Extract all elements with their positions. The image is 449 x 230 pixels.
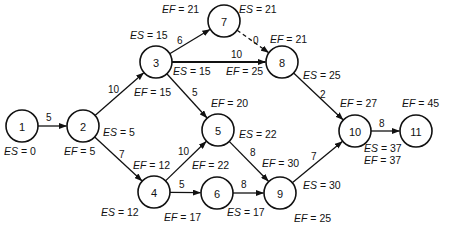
early-start-label: ES = 17 <box>227 206 265 218</box>
edge-9-10 <box>292 142 342 183</box>
early-start-label: ES = 15 <box>130 29 168 41</box>
node-label: 5 <box>215 125 221 137</box>
node-9: 9 <box>264 177 296 209</box>
edge-weight-label: 7 <box>119 149 125 160</box>
edge-weight-label: 10 <box>108 84 120 95</box>
early-finish-label: EF = 12 <box>133 159 170 171</box>
edge-weight-label: 8 <box>379 118 385 129</box>
edge-weight-label: 10 <box>231 49 243 60</box>
node-label: 7 <box>221 16 227 28</box>
early-finish-label: EF = 30 <box>262 157 299 169</box>
node-label: 8 <box>279 57 285 69</box>
edge-weight-label: 0 <box>253 35 259 46</box>
early-finish-label: EF = 27 <box>340 97 377 109</box>
node-3: 3 <box>140 46 172 78</box>
node-label: 9 <box>277 188 283 200</box>
node-label: 10 <box>349 126 361 138</box>
early-finish-label: EF = 25 <box>226 65 263 77</box>
edge-weight-label: 5 <box>179 179 185 190</box>
node-4: 4 <box>138 176 170 208</box>
node-1: 1 <box>6 110 38 142</box>
early-start-label: ES = 22 <box>239 128 277 140</box>
early-finish-label: EF = 21 <box>162 3 199 15</box>
early-start-label: ES = 37 <box>364 142 402 154</box>
early-finish-label: EF = 17 <box>164 211 201 223</box>
edge-weight-label: 2 <box>320 89 326 100</box>
early-finish-label: EF = 21 <box>270 33 307 45</box>
early-finish-label: EF = 5 <box>64 145 95 157</box>
early-finish-label: EF = 37 <box>364 154 401 166</box>
node-7: 7 <box>208 5 240 37</box>
early-start-label: ES = 0 <box>4 145 36 157</box>
edge-3-7 <box>170 30 210 54</box>
edge-weight-label: 6 <box>177 35 183 46</box>
early-start-label: ES = 15 <box>173 65 211 77</box>
node-2: 2 <box>67 110 99 142</box>
edge-weight-label: 7 <box>311 151 317 162</box>
edge-weight-label: 10 <box>178 146 190 157</box>
early-finish-label: EF = 45 <box>402 97 439 109</box>
edge-3-5 <box>167 74 207 118</box>
network-diagram: 1234567891011 51076105010588278ES = 0EF … <box>0 0 449 230</box>
edge-weight-label: 5 <box>46 112 52 123</box>
node-6: 6 <box>201 177 233 209</box>
early-start-label: ES = 5 <box>103 126 135 138</box>
edge-weight-label: 8 <box>241 179 247 190</box>
edge-weight-label: 8 <box>250 147 256 158</box>
node-label: 11 <box>410 126 421 138</box>
node-label: 1 <box>19 121 25 133</box>
early-finish-label: EF = 25 <box>294 212 331 224</box>
node-label: 6 <box>214 188 220 200</box>
early-finish-label: EF = 22 <box>192 159 229 171</box>
node-label: 4 <box>151 187 157 199</box>
edge-weight-label: 5 <box>192 87 198 98</box>
early-start-label: ES = 30 <box>303 179 341 191</box>
early-start-label: ES = 21 <box>239 3 277 15</box>
node-label: 2 <box>80 121 86 133</box>
node-5: 5 <box>202 114 234 146</box>
early-finish-label: EF = 15 <box>134 86 171 98</box>
early-finish-label: EF = 20 <box>211 97 248 109</box>
node-11: 11 <box>400 115 432 147</box>
node-8: 8 <box>266 46 298 78</box>
early-start-label: ES = 12 <box>101 206 139 218</box>
node-label: 3 <box>153 57 159 69</box>
early-start-label: ES = 25 <box>303 69 341 81</box>
